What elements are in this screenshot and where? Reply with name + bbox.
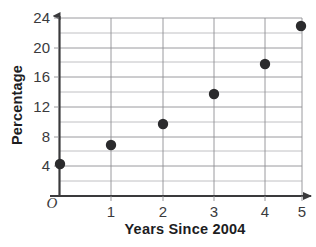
data-point — [55, 159, 65, 169]
ytick-label-20: 20 — [33, 39, 50, 56]
data-point — [158, 119, 168, 129]
xtick-label-4: 4 — [261, 203, 269, 220]
x-axis-title: Years Since 2004 — [125, 221, 246, 237]
y-axis-title: Percentage — [9, 65, 25, 145]
xtick-label-1: 1 — [107, 203, 115, 220]
ytick-label-8: 8 — [42, 128, 50, 145]
ytick-label-24: 24 — [33, 9, 50, 26]
chart-canvas: 24 20 16 12 8 4 1 2 3 4 5 O Years Since … — [0, 0, 316, 247]
ytick-label-12: 12 — [33, 98, 50, 115]
origin-label: O — [47, 195, 58, 211]
ytick-label-16: 16 — [33, 68, 50, 85]
xtick-label-3: 3 — [210, 203, 218, 220]
xtick-label-2: 2 — [159, 203, 167, 220]
scatter-plot-figure: 24 20 16 12 8 4 1 2 3 4 5 O Years Since … — [0, 0, 316, 247]
data-point — [209, 89, 219, 99]
data-point — [106, 140, 116, 150]
data-point — [260, 59, 270, 69]
data-point — [296, 21, 306, 31]
xtick-label-5: 5 — [298, 203, 306, 220]
ytick-label-4: 4 — [42, 157, 50, 174]
